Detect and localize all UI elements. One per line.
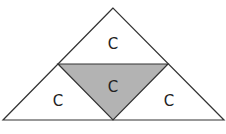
- label-left: C: [53, 92, 63, 110]
- label-top: C: [108, 35, 118, 53]
- label-center: C: [108, 78, 118, 96]
- triangle-diagram: C C C C: [0, 0, 226, 134]
- label-right: C: [164, 92, 174, 110]
